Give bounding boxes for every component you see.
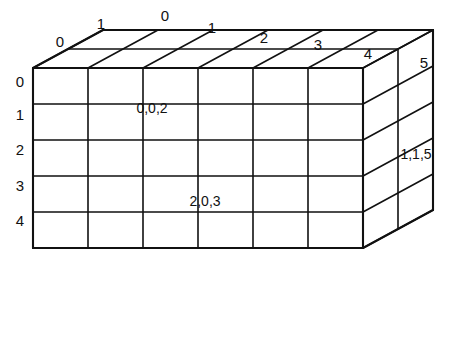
row-axis-tick-3: 3 [16,177,24,194]
column-axis-tick-2: 2 [260,29,268,46]
row-axis-tick-1: 1 [16,106,24,123]
isometric-array-svg: 01012345012340,0,22,0,31,1,5 [0,0,472,363]
column-axis-tick-4: 4 [364,45,372,62]
cell-label-0-0-2: 0,0,2 [136,100,167,116]
column-axis-tick-0: 0 [161,7,169,24]
column-axis-tick-5: 5 [420,54,428,71]
column-axis-tick-3: 3 [314,36,322,53]
column-axis-tick-1: 1 [208,19,216,36]
row-axis-tick-0: 0 [16,73,24,90]
row-axis-tick-2: 2 [16,141,24,158]
depth-axis-tick-0: 0 [56,33,64,50]
depth-axis-tick-1: 1 [97,15,105,32]
row-axis-tick-4: 4 [16,212,24,229]
cell-label-1-1-5: 1,1,5 [400,146,431,162]
cell-label-2-0-3: 2,0,3 [189,193,220,209]
array-diagram-figure: 01012345012340,0,22,0,31,1,5 [0,0,472,363]
